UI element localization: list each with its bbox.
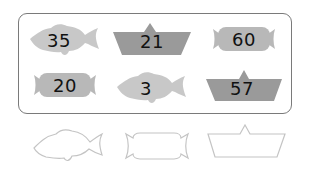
- boat-outline-icon: [207, 124, 287, 159]
- fish-number: 35: [23, 23, 95, 57]
- fish-card-3: 3: [116, 71, 188, 105]
- boat-number: 21: [113, 27, 191, 56]
- candy-number: 20: [33, 72, 97, 98]
- candy-card-60: 60: [212, 26, 276, 52]
- boat-card-21: 21: [113, 22, 191, 56]
- candy-outline-icon: [124, 132, 190, 160]
- fish-card-35: 35: [29, 23, 101, 57]
- boat-outline-slot: [207, 124, 287, 159]
- candy-card-20: 20: [33, 72, 97, 98]
- fish-outline-slot: [32, 128, 104, 164]
- candy-number: 60: [212, 26, 276, 52]
- boat-card-57: 57: [206, 70, 284, 102]
- boat-number: 57: [203, 75, 281, 102]
- fish-outline-icon: [32, 128, 104, 164]
- fish-number: 3: [110, 71, 182, 105]
- candy-outline-slot: [124, 132, 190, 160]
